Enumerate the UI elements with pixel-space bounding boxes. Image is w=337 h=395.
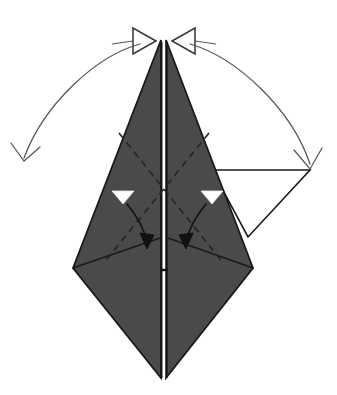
origami-diagram — [0, 0, 337, 395]
center-vertical-slit — [160, 42, 168, 378]
origami-figure-svg — [0, 0, 337, 395]
